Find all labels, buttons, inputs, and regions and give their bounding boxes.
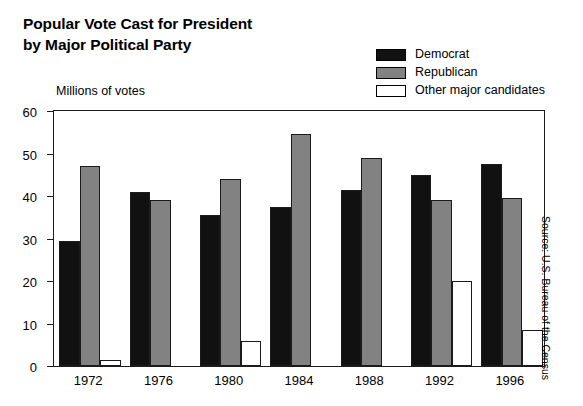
y-axis-tick: 60 [47,111,54,112]
y-axis-tick: 30 [47,239,54,240]
legend-label-republican: Republican [415,66,478,79]
legend-item-other: Other major candidates [376,82,545,99]
y-axis-tick-label: 0 [30,360,37,375]
y-axis-title: Millions of votes [56,84,145,98]
source-note: Source: U.S. Bureau of the Census [540,216,552,380]
legend-item-democrat: Democrat [376,46,545,63]
legend-swatch-republican [376,67,406,79]
x-axis-tick-label: 1980 [214,373,243,388]
x-axis-tick-label: 1972 [74,373,103,388]
bar-other [241,341,262,367]
bar-other [452,281,473,366]
bar-democrat [59,241,80,366]
bar-democrat [411,175,432,366]
x-axis-tick-label: 1996 [495,373,524,388]
bar-democrat [270,207,291,366]
bar-republican [220,179,241,366]
x-axis-tick-label: 1976 [144,373,173,388]
y-axis-tick-label: 40 [23,190,37,205]
bar-republican [80,166,101,366]
bar-democrat [481,164,502,366]
title-line-1: Popular Vote Cast for President [23,14,403,35]
x-axis-tick-label: 1988 [355,373,384,388]
bar-republican [361,158,382,366]
y-axis-tick-label: 10 [23,317,37,332]
bar-republican [502,198,523,366]
legend-swatch-democrat [376,49,406,61]
bar-republican [291,134,312,366]
y-axis-tick-label: 50 [23,147,37,162]
y-axis-tick: 10 [47,324,54,325]
plot-area: 0102030405060 [53,110,545,367]
y-axis-tick: 40 [47,196,54,197]
y-axis-tick: 20 [47,281,54,282]
bar-republican [431,200,452,366]
y-axis-tick-label: 60 [23,105,37,120]
legend-item-republican: Republican [376,64,545,81]
bar-republican [150,200,171,366]
page-title: Popular Vote Cast for President by Major… [23,14,403,55]
x-axis-tick-label: 1984 [285,373,314,388]
y-axis-tick: 0 [47,366,54,367]
bar-group [130,111,192,366]
y-axis-tick: 50 [47,154,54,155]
chart-legend: Democrat Republican Other major candidat… [376,46,545,100]
bar-group [270,111,332,366]
legend-swatch-other [376,85,406,97]
plot-inner: 0102030405060 [54,111,544,366]
bar-group [200,111,262,366]
bar-democrat [130,192,151,366]
bar-democrat [341,190,362,366]
bar-group [411,111,473,366]
y-axis-tick-label: 20 [23,275,37,290]
legend-label-democrat: Democrat [415,48,469,61]
chart-container: Popular Vote Cast for President by Major… [0,0,583,406]
bar-democrat [200,215,221,366]
bar-other [100,360,121,366]
bar-group [59,111,121,366]
title-line-2: by Major Political Party [23,35,403,56]
bar-group [481,111,543,366]
x-axis-tick-label: 1992 [425,373,454,388]
bar-group [341,111,403,366]
y-axis-tick-label: 30 [23,232,37,247]
legend-label-other: Other major candidates [415,84,545,97]
